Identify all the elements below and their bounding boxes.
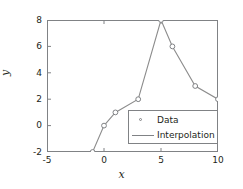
y-tick-label-2-text: 2 xyxy=(20,95,42,104)
chart-figure: 8 6 4 2 0 -2 -5 0 5 10 y x Data Interpol… xyxy=(0,0,243,189)
x-axis-label: x xyxy=(0,168,243,181)
data-point xyxy=(102,123,107,128)
y-tick-label-8-text: 8 xyxy=(20,16,42,25)
data-point xyxy=(216,97,218,102)
y-tick-marks xyxy=(47,20,51,126)
data-point xyxy=(193,84,198,89)
y-tick-label-4-text: 4 xyxy=(20,69,42,78)
line-sample-icon xyxy=(129,128,157,142)
legend-label-interpolation: Interpolation xyxy=(157,130,215,140)
circle-marker-icon xyxy=(129,113,157,127)
data-point xyxy=(159,20,164,22)
chart-legend: Data Interpolation xyxy=(128,110,218,144)
data-point xyxy=(170,44,175,49)
legend-label-data: Data xyxy=(157,115,179,125)
legend-item-data: Data xyxy=(129,112,217,128)
x-tick-label-5: 5 xyxy=(146,156,176,165)
x-tick-label-0: 0 xyxy=(89,156,119,165)
x-tick-label-neg5: -5 xyxy=(32,156,62,165)
data-point xyxy=(113,110,118,115)
y-axis-label: y xyxy=(0,70,12,76)
data-point xyxy=(136,97,141,102)
legend-item-interpolation: Interpolation xyxy=(129,127,217,143)
x-tick-label-10: 10 xyxy=(203,156,233,165)
data-point xyxy=(90,150,95,152)
y-tick-label-0-text: 0 xyxy=(20,121,42,130)
y-tick-label-6-text: 6 xyxy=(20,42,42,51)
